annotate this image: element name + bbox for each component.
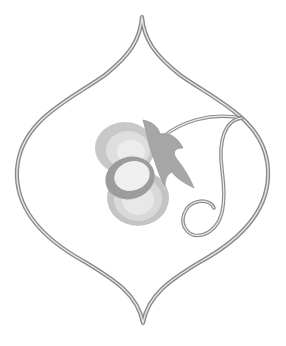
ornament-artwork [0,0,286,346]
